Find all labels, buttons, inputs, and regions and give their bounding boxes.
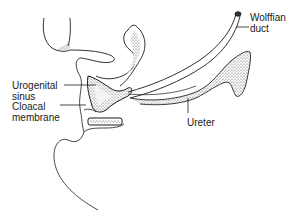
label-wolffian-duct-line1: Wolffian [250,12,286,23]
label-wolffian-duct-line2: duct [250,23,286,34]
label-cloacal-membrane-line1: Cloacal [12,101,60,112]
wolffian-duct-shape [128,12,241,98]
label-ureter-line1: Ureter [187,117,215,128]
ureter-shape [128,51,251,104]
upper-fold [43,18,114,63]
label-urogenital-sinus-line1: Urogenital [12,80,58,91]
label-ureter: Ureter [187,117,215,128]
cloacal-membrane-shape [84,109,124,132]
label-urogenital-sinus: Urogenital sinus [12,80,58,102]
label-cloacal-membrane-line2: membrane [12,112,60,123]
label-wolffian-duct: Wolffian duct [250,12,286,34]
hindgut [96,25,145,86]
label-cloacal-membrane: Cloacal membrane [12,101,60,123]
anatomy-diagram: Wolffian duct Urogenital sinus Cloacal m… [0,0,304,218]
